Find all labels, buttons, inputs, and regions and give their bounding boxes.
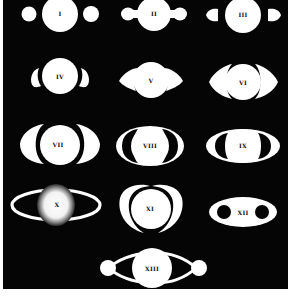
figure-label-vi: VI [238,79,247,86]
saturn-figure-iv: IV [31,58,89,94]
saturn-figure-ii: II [121,0,187,31]
saturn-figure-x: X [12,184,100,226]
figure-label-vii: VII [52,141,64,148]
saturn-figure-ix: IX [206,129,280,163]
figure-label-ix: IX [239,142,247,149]
saturn-drawings-figure: I II III IV V VI VII [0,0,293,300]
saturn-figure-i: I [22,0,100,32]
figure-label-xii: XII [238,209,249,216]
saturn-figure-xiii: XIII [100,248,207,288]
saturn-figure-iii: III [206,0,281,33]
figure-label-x: X [55,201,60,208]
figure-label-xi: XI [146,205,154,212]
figure-label-xiii: XIII [145,265,159,272]
saturn-figure-xii: XII [209,197,277,227]
saturn-figure-viii: VIII [116,126,184,166]
figure-label-viii: VIII [142,142,157,149]
saturn-figure-vii: VII [20,124,100,165]
figure-label-iii: III [238,11,247,18]
figure-label-ii: II [151,10,157,17]
saturn-figure-vi: VI [209,64,278,100]
figure-label-iv: IV [56,73,64,80]
figure-label-i: I [58,10,61,17]
figure-label-v: V [148,77,154,84]
saturn-figure-xi: XI [119,185,182,233]
saturn-figure-v: V [119,62,183,98]
